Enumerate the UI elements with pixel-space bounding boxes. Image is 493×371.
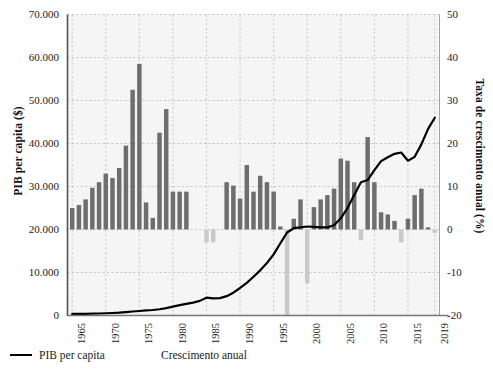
legend-item-line: PIB per capita — [10, 349, 105, 361]
x-axis-tick-label: 2005 — [346, 323, 357, 344]
y-axis-left-tick-label: 70.000 — [7, 9, 59, 20]
y-axis-right-tick-label: 0 — [447, 224, 481, 235]
bar-swatch-positive — [128, 350, 141, 361]
y-axis-left-tick-label: 40.000 — [7, 138, 59, 149]
x-axis-tick-label: 2000 — [312, 323, 323, 344]
y-axis-right-tick-label: -20 — [447, 310, 481, 321]
x-axis-tick-label: 1985 — [211, 323, 222, 344]
y-axis-left-tick-label: 60.000 — [7, 52, 59, 63]
y-axis-left-tick-label: 0 — [7, 310, 59, 321]
x-axis-tick-label: 1970 — [111, 323, 122, 344]
y-axis-right-tick-label: 50 — [447, 9, 481, 20]
x-axis-tick-label: 1990 — [245, 323, 256, 344]
x-axis-tick-label: 2015 — [413, 323, 424, 344]
legend-line-label: PIB per capita — [39, 349, 105, 361]
x-axis-tick-label: 1980 — [178, 323, 189, 344]
x-axis-tick-label: 1995 — [279, 323, 290, 344]
y-axis-left-tick-label: 10.000 — [7, 267, 59, 278]
x-axis-tick-label: 1975 — [144, 323, 155, 344]
y-axis-right-tick-label: 40 — [447, 52, 481, 63]
y-axis-right-tick-label: 20 — [447, 138, 481, 149]
x-axis-tick-label: 2010 — [379, 323, 390, 344]
chart-legend: PIB per capita Crescimento anual — [0, 345, 493, 371]
bar-swatch-icon — [128, 350, 154, 361]
x-axis-tick-label: 1965 — [77, 323, 88, 344]
chart-figure: PIB per capita ($) Taxa de crescimento a… — [0, 0, 493, 371]
legend-bar-label: Crescimento anual — [161, 349, 247, 361]
y-axis-right-tick-label: 10 — [447, 181, 481, 192]
bar-swatch-negative — [141, 350, 154, 361]
y-axis-left-tick-label: 50.000 — [7, 95, 59, 106]
legend-item-bars: Crescimento anual — [128, 349, 247, 361]
x-axis-tick-label: 2019 — [440, 323, 451, 344]
chart-plot-area — [0, 0, 493, 371]
y-axis-left-tick-label: 20.000 — [7, 224, 59, 235]
y-axis-right-tick-label: 30 — [447, 95, 481, 106]
y-axis-right-tick-label: -10 — [447, 267, 481, 278]
line-swatch-icon — [10, 354, 32, 356]
y-axis-left-tick-label: 30.000 — [7, 181, 59, 192]
